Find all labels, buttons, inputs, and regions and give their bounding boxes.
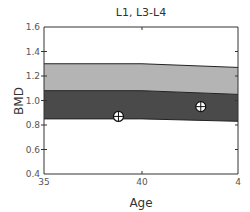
bands-layer bbox=[44, 64, 238, 122]
y-tick-label: 0.8 bbox=[26, 120, 41, 130]
data-point bbox=[196, 102, 206, 112]
y-tick-label: 1.2 bbox=[26, 71, 40, 81]
x-tick-label: 35 bbox=[38, 177, 49, 187]
bmd-chart: L1, L3-L4 0.40.60.81.01.21.41.6 35404 Ag… bbox=[0, 0, 250, 212]
x-tick-label: 4 bbox=[235, 177, 241, 187]
upper-reference-band bbox=[44, 64, 238, 95]
x-tick-label: 40 bbox=[136, 177, 148, 187]
y-tick-label: 1.0 bbox=[26, 96, 41, 106]
y-axis-label: BMD bbox=[12, 87, 26, 115]
y-tick-label: 1.4 bbox=[26, 47, 41, 57]
lower-reference-band bbox=[44, 91, 238, 122]
y-tick-label: 1.6 bbox=[26, 22, 41, 32]
y-tick-label: 0.6 bbox=[26, 145, 41, 155]
chart-title: L1, L3-L4 bbox=[116, 6, 166, 19]
data-point bbox=[113, 111, 123, 121]
x-axis-label: Age bbox=[129, 196, 152, 210]
